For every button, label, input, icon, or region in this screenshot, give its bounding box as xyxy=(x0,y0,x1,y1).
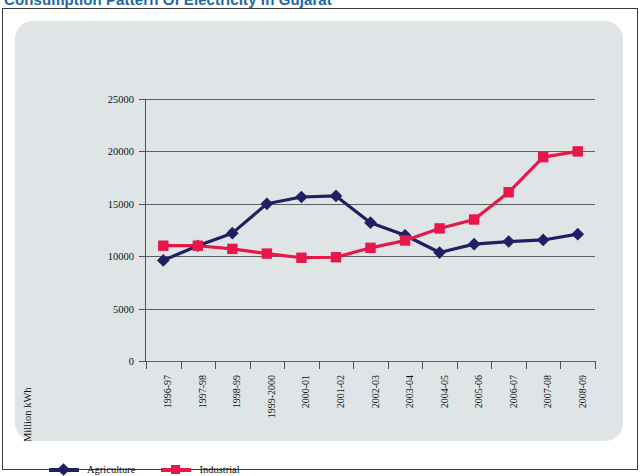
legend-label: Industrial xyxy=(199,464,239,475)
y-tick-label: 10000 xyxy=(108,251,134,262)
data-point-marker xyxy=(400,235,410,245)
y-tick-label: 5000 xyxy=(113,303,134,314)
data-point-marker xyxy=(295,191,308,204)
y-tick-label: 25000 xyxy=(108,94,134,105)
y-tick-label: 0 xyxy=(129,356,134,367)
legend-swatch-square-icon xyxy=(161,465,191,474)
legend-swatch-diamond-icon xyxy=(49,465,79,474)
x-tick-label: 1998-99 xyxy=(231,375,242,408)
data-point-marker xyxy=(537,234,550,247)
x-tick-label: 2003-04 xyxy=(404,375,415,408)
x-tick-label: 2004-05 xyxy=(438,375,449,408)
x-tick-label: 1999-2000 xyxy=(265,375,276,418)
data-point-marker xyxy=(538,152,548,162)
y-axis-title: Million kWh xyxy=(22,387,33,442)
data-point-marker xyxy=(469,214,479,224)
data-point-marker xyxy=(296,253,306,263)
x-tick-label: 2001-02 xyxy=(334,375,345,408)
x-tick xyxy=(526,361,527,369)
data-point-marker xyxy=(434,223,444,233)
data-point-marker xyxy=(433,246,446,259)
x-tick-label: 1996-97 xyxy=(162,375,173,408)
chart-legend: AgricultureIndustrial xyxy=(49,464,240,475)
y-tick-label: 20000 xyxy=(108,146,134,157)
legend-label: Agriculture xyxy=(87,464,135,475)
data-series-layer xyxy=(146,99,595,361)
series-industrial xyxy=(158,146,583,263)
x-tick xyxy=(146,361,147,369)
x-tick xyxy=(284,361,285,369)
data-point-marker xyxy=(503,187,513,197)
series-agriculture xyxy=(157,190,584,267)
x-tick xyxy=(353,361,354,369)
x-tick xyxy=(319,361,320,369)
x-tick-label: 2002-03 xyxy=(369,375,380,408)
y-tick-label: 15000 xyxy=(108,198,134,209)
x-tick xyxy=(388,361,389,369)
x-tick xyxy=(595,361,596,369)
x-tick-label: 2005-06 xyxy=(473,375,484,408)
gridline xyxy=(146,361,595,362)
chart-plot-background: 0500010000150002000025000 1996-971997-98… xyxy=(15,21,623,441)
legend-marker xyxy=(171,465,180,474)
y-tick xyxy=(139,256,146,257)
x-tick xyxy=(491,361,492,369)
y-tick xyxy=(139,99,146,100)
data-point-marker xyxy=(262,248,272,258)
plot-area: 0500010000150002000025000 1996-971997-98… xyxy=(146,99,595,361)
y-tick xyxy=(139,361,146,362)
x-tick xyxy=(181,361,182,369)
data-point-marker xyxy=(193,241,203,251)
data-point-marker xyxy=(158,241,168,251)
y-tick xyxy=(139,309,146,310)
x-tick-label: 2006-07 xyxy=(507,375,518,408)
legend-item[interactable]: Industrial xyxy=(161,464,239,475)
legend-item[interactable]: Agriculture xyxy=(49,464,135,475)
data-point-marker xyxy=(573,146,583,156)
x-tick xyxy=(422,361,423,369)
x-tick xyxy=(250,361,251,369)
x-tick-label: 2007-08 xyxy=(542,375,553,408)
data-point-marker xyxy=(227,244,237,254)
x-tick xyxy=(457,361,458,369)
data-point-marker xyxy=(571,228,584,241)
data-point-marker xyxy=(331,252,341,262)
data-point-marker xyxy=(468,238,481,251)
figure-frame: 0500010000150002000025000 1996-971997-98… xyxy=(2,8,638,470)
data-point-marker xyxy=(157,254,170,267)
y-tick xyxy=(139,151,146,152)
data-point-marker xyxy=(502,235,515,248)
legend-marker xyxy=(57,463,70,476)
x-tick-label: 2000-01 xyxy=(300,375,311,408)
x-tick-label: 2008-09 xyxy=(576,375,587,408)
x-tick-label: 1997-98 xyxy=(196,375,207,408)
y-tick xyxy=(139,204,146,205)
data-point-marker xyxy=(365,243,375,253)
x-tick xyxy=(215,361,216,369)
x-tick xyxy=(560,361,561,369)
